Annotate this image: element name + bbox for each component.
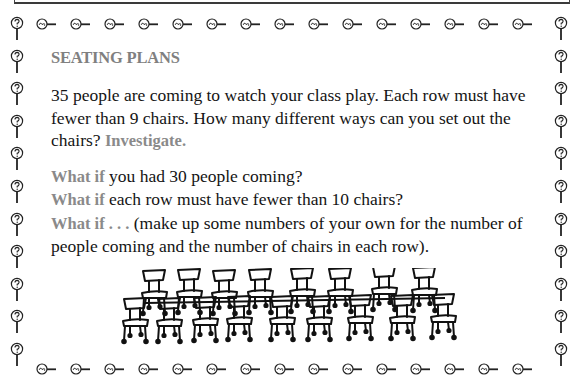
investigate-prompt: Investigate. — [105, 131, 186, 150]
magnifier-tilde-icon — [308, 363, 342, 375]
magnifier-question-icon — [10, 277, 24, 310]
what-if-label: What if . . . — [51, 214, 129, 233]
border-top — [36, 18, 546, 30]
magnifier-tilde-icon — [70, 363, 104, 375]
magnifier-tilde-icon — [240, 363, 274, 375]
magnifier-tilde-icon — [410, 18, 444, 30]
chair-back-row — [141, 268, 437, 315]
magnifier-question-icon — [10, 146, 24, 179]
worksheet-content: SEATING PLANS 35 people are coming to wa… — [51, 47, 531, 258]
magnifier-question-icon — [10, 114, 24, 147]
magnifier-tilde-icon — [478, 18, 512, 30]
magnifier-tilde-icon — [240, 18, 274, 30]
magnifier-tilde-icon — [206, 363, 240, 375]
what-if-item: What if you had 30 people coming? — [51, 165, 531, 189]
magnifier-tilde-icon — [478, 363, 512, 375]
page-title: SEATING PLANS — [51, 47, 531, 69]
magnifier-question-icon — [554, 81, 568, 114]
magnifier-question-icon — [554, 342, 568, 375]
magnifier-tilde-icon — [512, 363, 546, 375]
intro-paragraph: 35 people are coming to watch your class… — [51, 84, 531, 153]
magnifier-question-icon — [554, 114, 568, 147]
magnifier-question-icon — [10, 16, 24, 49]
magnifier-tilde-icon — [444, 18, 478, 30]
chairs-illustration — [115, 268, 465, 362]
magnifier-question-icon — [10, 81, 24, 114]
what-if-item: What if . . . (make up some numbers of y… — [51, 212, 531, 258]
what-if-label: What if — [51, 167, 105, 186]
magnifier-tilde-icon — [104, 18, 138, 30]
magnifier-tilde-icon — [36, 363, 70, 375]
magnifier-question-icon — [10, 309, 24, 342]
magnifier-question-icon — [554, 244, 568, 277]
magnifier-tilde-icon — [138, 18, 172, 30]
what-if-text: each row must have fewer than 10 chairs? — [109, 189, 403, 209]
magnifier-question-icon — [554, 212, 568, 245]
border-right — [554, 16, 568, 375]
magnifier-tilde-icon — [308, 18, 342, 30]
magnifier-question-icon — [10, 244, 24, 277]
magnifier-tilde-icon — [206, 18, 240, 30]
top-rule — [14, 0, 570, 4]
magnifier-tilde-icon — [104, 363, 138, 375]
magnifier-question-icon — [554, 146, 568, 179]
magnifier-tilde-icon — [376, 18, 410, 30]
magnifier-question-icon — [554, 309, 568, 342]
magnifier-tilde-icon — [410, 363, 444, 375]
magnifier-tilde-icon — [512, 18, 546, 30]
magnifier-question-icon — [10, 49, 24, 82]
what-if-item: What if each row must have fewer than 10… — [51, 188, 531, 212]
magnifier-question-icon — [554, 16, 568, 49]
magnifier-question-icon — [554, 49, 568, 82]
magnifier-tilde-icon — [342, 363, 376, 375]
what-if-text: you had 30 people coming? — [109, 166, 302, 186]
border-left — [10, 16, 24, 375]
magnifier-tilde-icon — [376, 363, 410, 375]
magnifier-question-icon — [10, 179, 24, 212]
what-if-list: What if you had 30 people coming? What i… — [51, 165, 531, 258]
magnifier-tilde-icon — [274, 18, 308, 30]
magnifier-tilde-icon — [342, 18, 376, 30]
what-if-label: What if — [51, 190, 105, 209]
magnifier-tilde-icon — [138, 363, 172, 375]
magnifier-question-icon — [10, 212, 24, 245]
magnifier-question-icon — [554, 277, 568, 310]
magnifier-tilde-icon — [172, 18, 206, 30]
magnifier-tilde-icon — [36, 18, 70, 30]
magnifier-tilde-icon — [70, 18, 104, 30]
magnifier-question-icon — [554, 179, 568, 212]
magnifier-tilde-icon — [274, 363, 308, 375]
border-bottom — [36, 363, 546, 375]
magnifier-question-icon — [10, 342, 24, 375]
magnifier-tilde-icon — [444, 363, 478, 375]
magnifier-tilde-icon — [172, 363, 206, 375]
